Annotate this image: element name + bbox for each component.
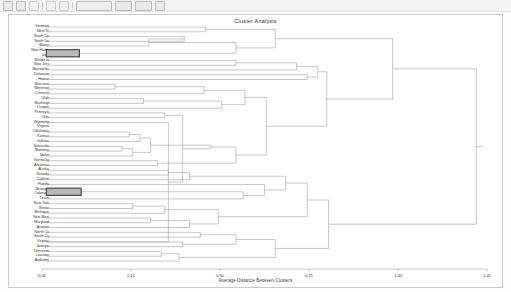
x-axis-label: Average Distance Between Clusters bbox=[9, 278, 502, 283]
open-icon[interactable] bbox=[16, 1, 26, 11]
new-icon[interactable] bbox=[3, 1, 13, 11]
toolbar[interactable] bbox=[0, 0, 511, 12]
print-icon[interactable] bbox=[46, 1, 56, 11]
properties-icon[interactable] bbox=[155, 1, 165, 11]
cluster-analysis-plot: Cluster Analysis VermontWest ViSouth DaN… bbox=[8, 14, 503, 288]
select-tool-icon[interactable] bbox=[135, 1, 152, 11]
zoom-tool-icon[interactable] bbox=[115, 1, 132, 11]
save-icon[interactable] bbox=[29, 1, 39, 11]
x-axis bbox=[9, 15, 502, 287]
chart-tool-group-icon[interactable] bbox=[76, 1, 112, 11]
toolbar-separator bbox=[42, 2, 43, 9]
toolbar-separator bbox=[72, 2, 73, 9]
undo-icon[interactable] bbox=[59, 1, 69, 11]
